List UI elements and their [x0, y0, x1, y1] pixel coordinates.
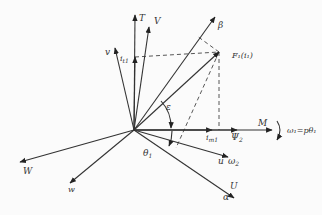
label-omega2: ω2	[228, 156, 239, 167]
label-beta: β	[217, 20, 223, 30]
projection-lines	[135, 36, 219, 148]
label-omega-equation: ω₁=pθ₁	[287, 126, 317, 135]
dash-it1-to-f1	[135, 52, 219, 57]
vector-W	[20, 130, 134, 162]
label-epsilon: ε	[166, 102, 171, 112]
label-V: V	[154, 16, 162, 26]
label-v: v	[105, 47, 110, 57]
label-T: T	[139, 13, 146, 23]
labels: T V v β F₁(i₁) M u U W w it1 im1 Ψ2 ω2 α…	[23, 13, 317, 202]
label-it1: it1	[120, 54, 129, 64]
vectors	[20, 15, 272, 198]
vector-diagram: T V v β F₁(i₁) M u U W w it1 im1 Ψ2 ω2 α…	[0, 0, 322, 215]
dash-f1-diagonal	[176, 52, 219, 148]
label-alpha: α	[223, 192, 229, 202]
label-F1: F₁(i₁)	[231, 51, 253, 60]
label-W: W	[23, 166, 33, 176]
label-im1: im1	[206, 133, 218, 143]
vector-V	[134, 27, 149, 130]
vector-beta	[134, 17, 215, 130]
label-theta1: θ1	[143, 148, 152, 159]
label-u: u	[218, 156, 224, 166]
theta1-arc	[169, 131, 172, 146]
label-psi2: Ψ2	[231, 132, 243, 143]
rotation-arc	[277, 121, 280, 140]
label-w: w	[68, 185, 75, 194]
vector-F1	[134, 52, 219, 130]
label-M: M	[257, 118, 268, 128]
label-U: U	[230, 181, 238, 191]
vector-w	[70, 130, 134, 183]
